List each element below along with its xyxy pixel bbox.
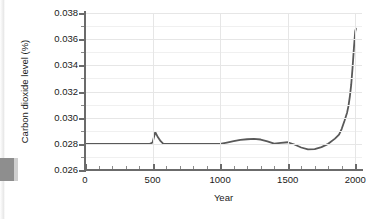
- gridline-major-x: [288, 13, 289, 170]
- gridline-minor-y: [85, 131, 362, 132]
- y-axis-tick-label: 0.032: [32, 87, 78, 97]
- gridline-minor-y: [85, 78, 362, 79]
- gridline-major-x: [153, 13, 154, 170]
- x-axis-line: [84, 169, 363, 171]
- gridline-minor-y: [85, 105, 362, 106]
- y-axis-tick-label: 0.030: [32, 113, 78, 123]
- gridline-minor-y: [85, 26, 362, 27]
- y-axis-tick-label: 0.034: [32, 60, 78, 70]
- gridline-minor-y: [85, 52, 362, 53]
- gridline-major-y: [85, 13, 362, 14]
- x-axis-title: Year: [85, 192, 362, 203]
- gridline-minor-y: [85, 157, 362, 158]
- x-axis-tick-label: 2000: [335, 174, 375, 185]
- y-axis-tick-labels: 0.0260.0280.0300.0320.0340.0360.038: [30, 0, 78, 219]
- y-axis-line: [84, 11, 86, 172]
- y-axis-title: Carbon dioxide level (%): [19, 22, 30, 162]
- x-axis-tick-label: 1500: [268, 174, 308, 185]
- gridline-major-y: [85, 118, 362, 119]
- gridline-major-x: [220, 13, 221, 170]
- x-axis-tick-label: 0: [65, 174, 105, 185]
- gridline-major-x: [355, 13, 356, 170]
- gridline-major-y: [85, 65, 362, 66]
- gridline-major-y: [85, 92, 362, 93]
- x-axis-tick-label: 1000: [200, 174, 240, 185]
- y-axis-tick-label: 0.028: [32, 139, 78, 149]
- y-axis-tick-label: 0.038: [32, 8, 78, 18]
- gridline-major-y: [85, 39, 362, 40]
- chart-page: 0.0260.0280.0300.0320.0340.0360.038 0500…: [0, 0, 388, 219]
- gridline-major-y: [85, 144, 362, 145]
- x-axis-tick-label: 500: [133, 174, 173, 185]
- y-axis-tick-label: 0.036: [32, 34, 78, 44]
- co2-line-chart: 0.0260.0280.0300.0320.0340.0360.038 0500…: [0, 0, 388, 219]
